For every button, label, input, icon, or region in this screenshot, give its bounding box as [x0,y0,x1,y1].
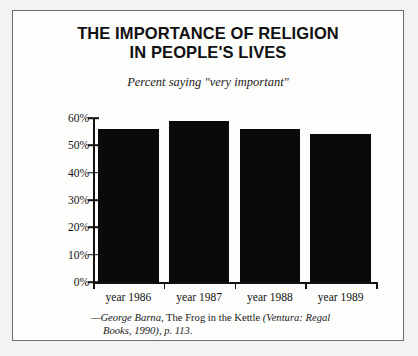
bar [169,121,229,282]
x-axis-tick-label: year 1986 [106,291,152,303]
bar-series [93,118,376,282]
y-axis-labels: 0%10%20%30%40%50%60% [47,118,89,282]
bar [98,129,158,282]
y-axis-tick-label: 10% [68,249,89,261]
y-axis-tick-label: 40% [68,167,89,179]
y-axis-tick-label: 0% [74,276,89,288]
y-axis-tick-label: 30% [68,194,89,206]
y-axis-tick [88,199,99,201]
bar [310,134,370,282]
x-axis-tick [376,282,378,289]
citation-author: —George Barna, [91,312,164,323]
citation-publisher: (Ventura: Regal [263,312,330,323]
y-axis-tick-label: 20% [68,221,89,233]
source-citation: —George Barna, The Frog in the Kettle (V… [91,311,381,337]
y-axis-tick [88,172,99,174]
y-axis-tick [88,227,99,229]
citation-work: The Frog in the Kettle [164,312,263,323]
x-axis-tick [93,282,95,289]
figure-subtitle: Percent saying "very important" [13,75,403,90]
x-axis-tick [305,282,307,289]
figure-title: THE IMPORTANCE OF RELIGION IN PEOPLE'S L… [13,24,403,62]
y-axis-tick [88,254,99,256]
y-axis-tick [88,117,99,119]
x-axis-tick [235,282,237,289]
citation-line-2: Books, 1990), p. 113. [91,324,381,337]
x-axis-tick [164,282,166,289]
x-axis-tick-label: year 1989 [318,291,364,303]
y-axis-tick-label: 50% [68,139,89,151]
plot-area: 0%10%20%30%40%50%60% year 1986year 1987y… [13,106,405,306]
x-axis-tick-label: year 1988 [247,291,293,303]
figure-frame: THE IMPORTANCE OF RELIGION IN PEOPLE'S L… [12,10,404,341]
bar [240,129,300,282]
y-axis-tick-label: 60% [68,112,89,124]
x-axis-tick-label: year 1987 [176,291,222,303]
y-axis-tick [88,145,99,147]
figure-inner: THE IMPORTANCE OF RELIGION IN PEOPLE'S L… [13,11,403,340]
figure-title-line-1: THE IMPORTANCE OF RELIGION [13,24,403,43]
x-axis-labels: year 1986year 1987year 1988year 1989 [93,291,376,307]
figure-title-line-2: IN PEOPLE'S LIVES [13,43,403,62]
